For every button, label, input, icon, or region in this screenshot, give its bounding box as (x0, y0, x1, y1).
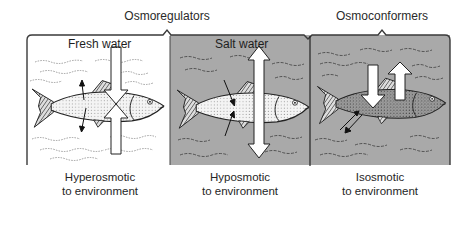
caption-line1: Hyperosmotic (30, 170, 170, 184)
caption-hyperosmotic: Hyperosmotic to environment (30, 170, 170, 198)
fresh-water-title: Fresh water (68, 37, 131, 51)
caption-line1: Isosmotic (310, 170, 450, 184)
caption-hyposmotic: Hyposmotic to environment (170, 170, 310, 198)
salt-water-title: Salt water (215, 37, 268, 51)
caption-line2: to environment (310, 184, 450, 198)
caption-isosmotic: Isosmotic to environment (310, 170, 450, 198)
caption-line2: to environment (30, 184, 170, 198)
caption-line2: to environment (170, 184, 310, 198)
caption-line1: Hyposmotic (170, 170, 310, 184)
